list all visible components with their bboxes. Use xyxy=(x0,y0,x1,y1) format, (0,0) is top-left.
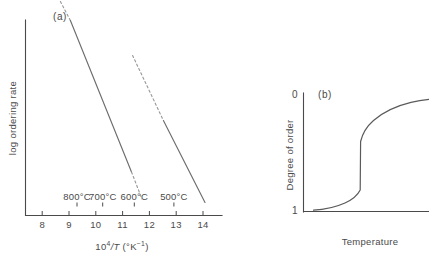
panel-a-xtick-label: 14 xyxy=(197,219,208,230)
x-title-units-exponent: −1 xyxy=(137,240,145,247)
panel-a-temperature-scale xyxy=(77,203,174,207)
panel-a-temp-label: 700°C xyxy=(89,191,117,202)
panel-a-branch1-solid xyxy=(70,21,131,173)
x-title-units-close: ) xyxy=(145,241,148,252)
panel-a-temp-label: 800°C xyxy=(63,191,91,202)
panel-a-xtick-label: 8 xyxy=(39,219,45,230)
panel-a-xtick-label: 9 xyxy=(66,219,72,230)
panel-a-xtick-label: 11 xyxy=(117,219,127,230)
panel-a-label: (a) xyxy=(53,11,67,22)
figure-container: 8 9 10 11 12 13 14 800°C 700°C 600°C 500… xyxy=(0,0,429,258)
panel-a-xtick-label: 13 xyxy=(171,219,182,230)
panel-a-y-axis-title: log ordering rate xyxy=(7,81,18,155)
x-title-units-open: (°K xyxy=(120,241,138,252)
panel-a-temp-label: 500°C xyxy=(160,191,188,202)
panel-b-y-top-label: 0 xyxy=(292,89,298,100)
panel-a-xtick-label: 10 xyxy=(90,219,101,230)
panel-b-order-curve xyxy=(314,99,429,210)
panel-a-branch2-dashed-upper xyxy=(133,56,164,121)
panel-a-x-ticks xyxy=(42,211,203,216)
x-title-base: 10 xyxy=(95,241,106,252)
panel-b: 0 1 (b) Degree of order Temperature xyxy=(284,89,429,247)
panel-a: 8 9 10 11 12 13 14 800°C 700°C 600°C 500… xyxy=(7,2,222,253)
panel-a-xtick-label: 12 xyxy=(144,219,155,230)
panel-b-label: (b) xyxy=(318,89,332,100)
panel-a-x-axis-title: 104/T (°K−1) xyxy=(95,240,148,252)
panel-b-y-axis-title: Degree of order xyxy=(284,119,295,190)
panel-b-x-axis-title: Temperature xyxy=(342,236,399,247)
figure-svg: 8 9 10 11 12 13 14 800°C 700°C 600°C 500… xyxy=(0,0,429,258)
panel-a-temp-label: 600°C xyxy=(121,191,149,202)
panel-b-y-bottom-label: 1 xyxy=(292,205,298,216)
